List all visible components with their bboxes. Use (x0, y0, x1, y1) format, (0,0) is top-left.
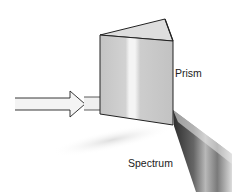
incident-light-arrow (15, 91, 101, 117)
spectrum-label: Spectrum (128, 157, 173, 169)
prism (100, 19, 173, 125)
diagram-graphic (0, 0, 239, 196)
spectrum-beam (173, 110, 232, 192)
prism-label: Prism (175, 67, 202, 79)
prism-diagram: Prism Spectrum (0, 0, 239, 196)
prism-shadow (49, 117, 174, 162)
